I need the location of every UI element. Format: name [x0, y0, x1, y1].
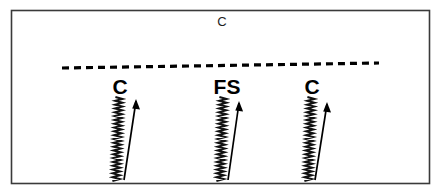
group-label: FS — [214, 75, 241, 98]
group-label: C — [304, 75, 319, 98]
figure-container: C C FS C — [0, 0, 442, 194]
diagram-canvas: C C FS C — [0, 0, 442, 194]
top-label-c: C — [217, 14, 226, 29]
group-label: C — [112, 75, 127, 98]
